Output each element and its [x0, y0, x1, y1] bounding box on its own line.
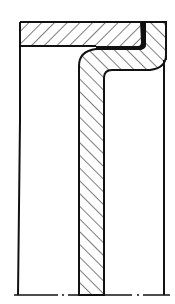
section-drawing	[0, 0, 175, 304]
top-flange-band	[20, 22, 145, 46]
l-shaped-sleeve	[79, 22, 166, 295]
